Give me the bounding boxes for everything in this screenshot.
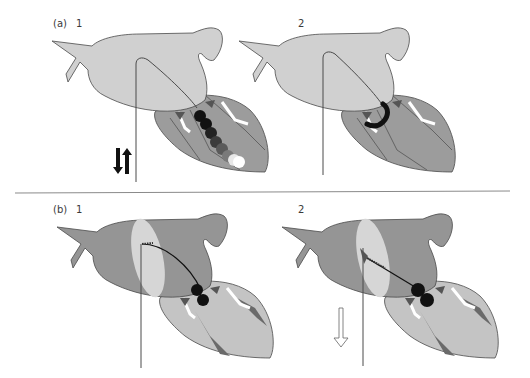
panel-a2 [239, 28, 455, 175]
orchid-pollination-diagram [0, 0, 530, 378]
down-arrow-icon [334, 308, 348, 347]
panel-b1 [57, 214, 273, 368]
panel-a1 [52, 28, 268, 182]
panel-separator [15, 191, 510, 193]
up-down-arrows-icon [113, 148, 132, 174]
column-body-a1 [52, 28, 222, 111]
panel-b2 [282, 214, 498, 366]
